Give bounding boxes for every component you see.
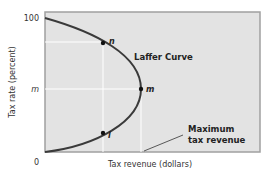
point-l-label: l — [108, 131, 111, 140]
y-tick-m: m — [31, 85, 39, 94]
y-tick-100: 100 — [24, 14, 39, 23]
origin-label: 0 — [34, 158, 39, 167]
annotation-line1: Maximum — [188, 124, 234, 134]
point-m-label: m — [146, 85, 154, 94]
x-axis-label: Tax revenue (dollars) — [107, 160, 192, 169]
y-axis-label: Tax rate (percent) — [8, 46, 17, 118]
point-m — [139, 87, 143, 91]
point-l — [101, 131, 105, 135]
laffer-curve-chart: n m l Laffer Curve Maximum tax revenue 1… — [0, 0, 270, 174]
point-n — [101, 41, 105, 45]
annotation-line2: tax revenue — [188, 135, 246, 145]
curve-label: Laffer Curve — [134, 52, 193, 62]
point-n-label: n — [109, 37, 115, 46]
